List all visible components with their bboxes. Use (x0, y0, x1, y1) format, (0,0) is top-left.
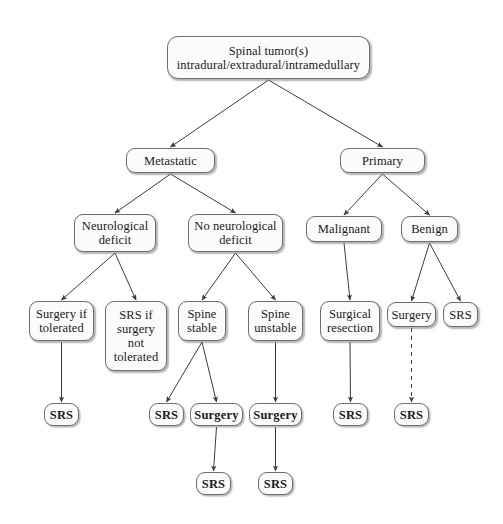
node-surgical-resection[interactable]: Surgical resection (320, 301, 380, 341)
node-srs-2[interactable]: SRS (149, 403, 184, 426)
node-malignant[interactable]: Malignant (306, 216, 382, 242)
edge-metastatic-to-neuro-deficit (115, 174, 171, 213)
node-srs-if-not-tol[interactable]: SRS if surgery not tolerated (105, 301, 167, 371)
edge-benign-to-srs-benign (430, 243, 461, 301)
edge-primary-to-benign (383, 174, 430, 215)
flowchart-canvas: Spinal tumor(s) intradural/extradural/in… (0, 0, 503, 524)
edge-surgical-resection-to-srs-3 (350, 342, 351, 402)
node-benign[interactable]: Benign (401, 216, 458, 242)
node-spine-stable[interactable]: Spine stable (178, 301, 226, 341)
node-primary[interactable]: Primary (340, 148, 425, 173)
node-srs-5[interactable]: SRS (196, 472, 231, 495)
node-srs-4[interactable]: SRS (394, 403, 429, 426)
node-no-neuro-deficit[interactable]: No neurological deficit (188, 214, 283, 252)
edge-malignant-to-surgical-resection (344, 243, 350, 300)
node-metastatic[interactable]: Metastatic (126, 148, 215, 173)
edge-benign-to-surgery-benign (412, 243, 430, 301)
edge-root-to-metastatic (171, 80, 269, 147)
node-neuro-deficit[interactable]: Neurological deficit (74, 214, 156, 252)
edge-spine-stable-to-srs-2 (167, 342, 203, 402)
node-srs-benign[interactable]: SRS (443, 302, 478, 327)
node-surgery-1[interactable]: Surgery (190, 403, 243, 426)
edge-spine-stable-to-surgery-1 (202, 342, 217, 402)
node-srs-6[interactable]: SRS (258, 472, 293, 495)
node-surgery-2[interactable]: Surgery (249, 403, 302, 426)
edge-neuro-deficit-to-surgery-if-tol (62, 253, 116, 300)
node-root[interactable]: Spinal tumor(s) intradural/extradural/in… (167, 36, 370, 79)
node-surgery-benign[interactable]: Surgery (387, 302, 436, 327)
edge-root-to-primary (269, 80, 383, 147)
edge-metastatic-to-no-neuro-deficit (171, 174, 236, 213)
edge-neuro-deficit-to-srs-if-not-tol (115, 253, 136, 300)
edge-primary-to-malignant (344, 174, 383, 215)
node-srs-3[interactable]: SRS (333, 403, 368, 426)
edge-no-neuro-deficit-to-spine-stable (202, 253, 236, 300)
edge-no-neuro-deficit-to-spine-unstable (236, 253, 276, 300)
node-surgery-if-tol[interactable]: Surgery if tolerated (29, 301, 94, 341)
node-srs-1[interactable]: SRS (44, 403, 79, 426)
node-spine-unstable[interactable]: Spine unstable (248, 301, 303, 341)
edge-surgery-1-to-srs-5 (214, 427, 217, 471)
